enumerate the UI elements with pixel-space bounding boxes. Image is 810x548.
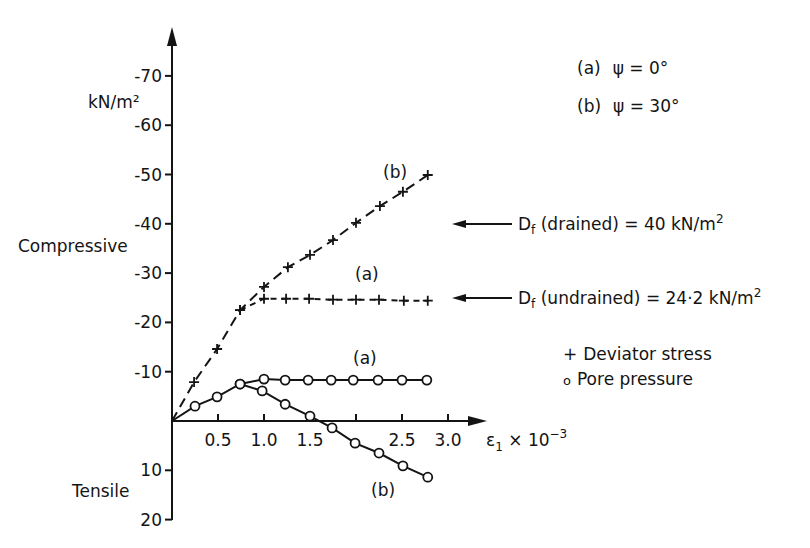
y-tick-label: -70: [134, 66, 162, 86]
plus-marker-icon: [399, 296, 409, 306]
arrow-undrained-head-icon: [452, 294, 466, 302]
legend-cases: (a)ψ = 0° (b)ψ = 30°: [577, 58, 679, 116]
plus-marker-icon: [281, 294, 291, 304]
plus-marker-icon: [283, 262, 293, 272]
plus-marker-icon: [259, 294, 269, 304]
x-tick-label: 1.5: [296, 430, 323, 450]
circle-marker-icon: [304, 376, 313, 385]
plus-marker-icon: [374, 295, 384, 305]
circle-marker-icon: [281, 376, 290, 385]
legend-marker-pore: oPore pressure: [563, 369, 693, 389]
circle-marker-icon: [236, 380, 245, 389]
circle-marker-icon: [258, 386, 267, 395]
y-tick-label: 20: [140, 510, 162, 530]
circle-marker-icon: [422, 376, 431, 385]
x-axis-label: ε1 × 10−3: [486, 427, 567, 454]
series-line: [172, 175, 428, 421]
epsilon-symbol: ε: [486, 430, 495, 450]
stress-strain-chart: -70-60-50-40-30-20-1010200.51.01.52.53.0…: [0, 0, 810, 548]
annotation-drained: Df (drained) = 40 kN/m2: [452, 212, 724, 237]
legend-markers: +Deviator stress oPore pressure: [563, 344, 712, 389]
plus-marker-icon: [351, 295, 361, 305]
y-tick-label: -20: [134, 312, 162, 332]
plus-marker-icon: [305, 250, 315, 260]
series-label: (a): [355, 264, 379, 284]
annotation-drained-text: Df (drained) = 40 kN/m2: [518, 212, 724, 237]
x-tick-label: 1.0: [250, 430, 277, 450]
circle-marker-icon: [327, 376, 336, 385]
circle-marker-icon: [328, 423, 337, 432]
circle-marker-icon: [260, 375, 269, 384]
plus-marker-icon: [328, 235, 338, 245]
y-tick-label: 10: [140, 460, 162, 480]
circle-marker-icon: [306, 412, 315, 421]
series-2: [172, 375, 431, 421]
annotation-undrained: Df (undrained) = 24·2 kN/m2: [452, 286, 761, 311]
legend-case-b: (b)ψ = 30°: [577, 96, 679, 116]
series-line: [172, 379, 427, 421]
circle-marker-icon: [375, 449, 384, 458]
y-tick-label: -30: [134, 263, 162, 283]
x-tick-label: 0.5: [204, 430, 231, 450]
tensile-label: Tensile: [71, 481, 130, 501]
circle-marker-icon: [213, 392, 222, 401]
axes: -70-60-50-40-30-20-1010200.51.01.52.53.0: [134, 27, 487, 530]
series-0: [172, 170, 433, 421]
x-tick-label: 3.0: [434, 430, 461, 450]
epsilon-subscript: 1: [495, 440, 503, 454]
series-label: (b): [383, 162, 407, 182]
plus-marker-icon: [375, 201, 385, 211]
plus-marker-icon: [328, 295, 338, 305]
series-label: (a): [353, 348, 377, 368]
legend-case-a: (a)ψ = 0°: [577, 58, 668, 78]
circle-marker-icon: [374, 376, 383, 385]
y-axis-arrow-icon: [167, 27, 177, 46]
y-tick-label: -10: [134, 362, 162, 382]
annotation-undrained-text: Df (undrained) = 24·2 kN/m2: [518, 286, 761, 311]
y-tick-label: -60: [134, 115, 162, 135]
series-1: [235, 294, 433, 315]
circle-marker-icon: [281, 400, 290, 409]
x-tick-label: 2.5: [388, 430, 415, 450]
arrow-drained-head-icon: [452, 220, 466, 228]
circle-marker-icon: [349, 376, 358, 385]
compressive-label: Compressive: [18, 236, 128, 256]
plus-marker-icon: [423, 296, 433, 306]
circle-marker-icon: [398, 461, 407, 470]
legend-marker-deviator: +Deviator stress: [563, 344, 712, 364]
x-axis-arrow-icon: [468, 416, 487, 426]
circle-marker-icon: [423, 473, 432, 482]
y-unit-label: kN/m²: [88, 92, 140, 112]
y-tick-label: -50: [134, 165, 162, 185]
series-label: (b): [371, 480, 395, 500]
circle-marker-icon: [191, 402, 200, 411]
exponent: −3: [550, 427, 568, 441]
circle-marker-icon: [398, 376, 407, 385]
plus-marker-icon: [304, 294, 314, 304]
circle-marker-icon: [351, 439, 360, 448]
y-tick-label: -40: [134, 214, 162, 234]
